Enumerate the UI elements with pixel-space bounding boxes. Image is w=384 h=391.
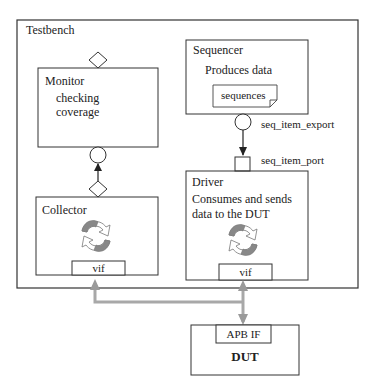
testbench-label: Testbench xyxy=(26,23,74,37)
bus-arrow-collector-icon xyxy=(90,279,100,290)
monitor-line-coverage: coverage xyxy=(56,105,99,119)
seq-item-port-label: seq_item_port xyxy=(261,153,324,167)
seq-item-export-circle-icon xyxy=(235,114,251,130)
arrowhead-up-icon xyxy=(94,163,102,171)
bus-arrow-driver-icon xyxy=(238,280,248,291)
monitor-line-checking: checking xyxy=(56,91,99,105)
arrowhead-down-icon xyxy=(239,147,247,156)
sequences-note-label: sequences xyxy=(221,88,266,102)
monitor-title: Monitor xyxy=(45,74,84,88)
bus-arrow-dut-icon xyxy=(238,314,248,325)
driver-vif-label: vif xyxy=(219,265,272,279)
dut-title: DUT xyxy=(191,350,299,364)
monitor-export-circle-icon xyxy=(90,147,106,163)
interface-bus xyxy=(95,283,243,322)
apb-if-label: APB IF xyxy=(216,327,271,341)
sequencer-title: Sequencer xyxy=(193,43,243,57)
sequencer-description: Produces data xyxy=(205,63,272,77)
seq-item-export-label: seq_item_export xyxy=(261,117,334,131)
collector-title: Collector xyxy=(42,203,87,217)
driver-cycle-icon xyxy=(229,225,257,256)
collector-vif-label: vif xyxy=(72,261,125,275)
seq-item-port-square-icon xyxy=(235,157,250,171)
monitor-analysis-port-diamond-icon xyxy=(89,52,107,68)
driver-line-1: Consumes and sends xyxy=(192,192,292,206)
driver-title: Driver xyxy=(192,175,223,189)
driver-line-2: data to the DUT xyxy=(192,207,270,221)
collector-cycle-icon xyxy=(82,221,110,252)
collector-analysis-port-diamond-icon xyxy=(89,181,107,197)
